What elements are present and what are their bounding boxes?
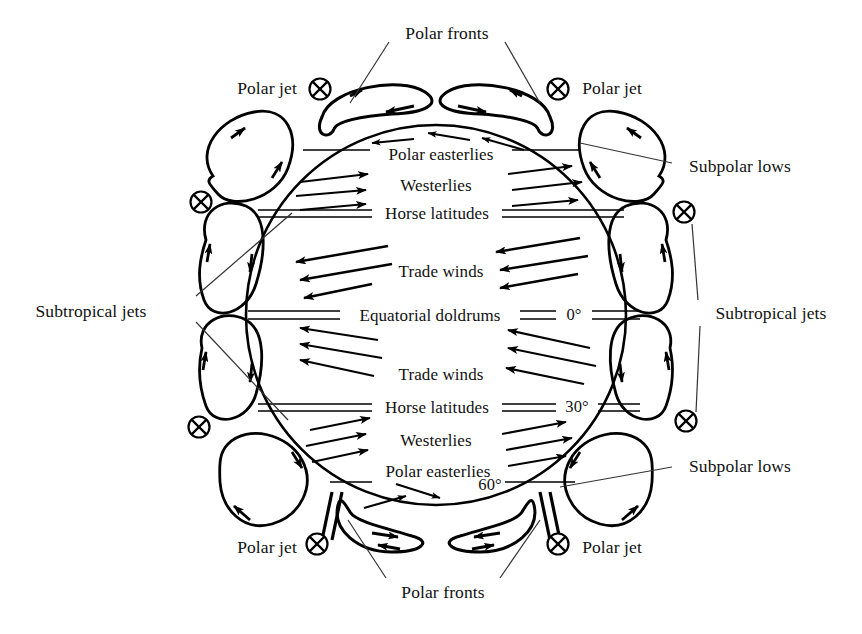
label-polar-fronts-bottom: Polar fronts <box>401 582 484 603</box>
label-equatorial-doldrums: Equatorial doldrums <box>359 306 500 326</box>
polar-front-loop-top-left <box>319 85 432 135</box>
label-subtropical-jets-left: Subtropical jets <box>36 301 147 322</box>
label-westerlies-north: Westerlies <box>400 176 471 196</box>
label-polar-jet-top-right: Polar jet <box>582 78 642 99</box>
label-horse-latitudes-south: Horse latitudes <box>385 398 489 418</box>
label-subpolar-lows-bottom-right: Subpolar lows <box>689 456 791 477</box>
label-latitude-equator: 0° <box>566 305 581 325</box>
cell-right-south-polar <box>565 433 652 525</box>
label-westerlies-south: Westerlies <box>400 431 471 451</box>
jet-symbol-subtropical-bottom-left[interactable] <box>189 417 210 438</box>
cell-left-hadley <box>199 316 261 420</box>
label-trade-winds-north: Trade winds <box>398 262 483 282</box>
jet-symbol-subtropical-top-right[interactable] <box>674 202 695 223</box>
jet-symbol-polar-bottom-right[interactable] <box>548 534 569 555</box>
label-subtropical-jets-right: Subtropical jets <box>716 303 827 324</box>
label-polar-jet-bottom-left: Polar jet <box>237 537 297 558</box>
label-trade-winds-south: Trade winds <box>398 365 483 385</box>
polar-front-markers-bottom <box>322 492 560 540</box>
cell-right-polar <box>579 111 665 201</box>
cell-left-polar <box>207 111 293 201</box>
jet-symbol-polar-top-right[interactable] <box>548 79 569 100</box>
label-subpolar-lows-top-right: Subpolar lows <box>689 156 791 177</box>
label-latitude-60: 60° <box>478 475 501 495</box>
polar-front-loop-bottom-left <box>337 501 423 552</box>
label-polar-jet-bottom-right: Polar jet <box>582 537 642 558</box>
jet-symbol-subtropical-top-left[interactable] <box>191 192 212 213</box>
circulation-diagram: Polar fronts Polar jet Polar jet Subpola… <box>0 0 862 634</box>
jet-symbol-polar-bottom-left[interactable] <box>307 534 328 555</box>
cell-left-south-polar <box>220 433 307 525</box>
polar-front-loop-top-right <box>440 85 553 135</box>
jet-symbol-subtropical-bottom-right[interactable] <box>676 411 697 432</box>
label-polar-jet-top-left: Polar jet <box>237 78 297 99</box>
label-polar-easterlies-south: Polar easterlies <box>386 462 491 482</box>
label-latitude-30: 30° <box>565 397 588 417</box>
polar-front-loop-bottom-right <box>449 501 535 552</box>
jet-symbol-polar-top-left[interactable] <box>310 79 331 100</box>
label-polar-fronts-top: Polar fronts <box>405 23 488 44</box>
label-horse-latitudes-north: Horse latitudes <box>385 204 489 224</box>
label-polar-easterlies-north: Polar easterlies <box>389 145 494 165</box>
cell-right-hadley <box>610 316 672 420</box>
